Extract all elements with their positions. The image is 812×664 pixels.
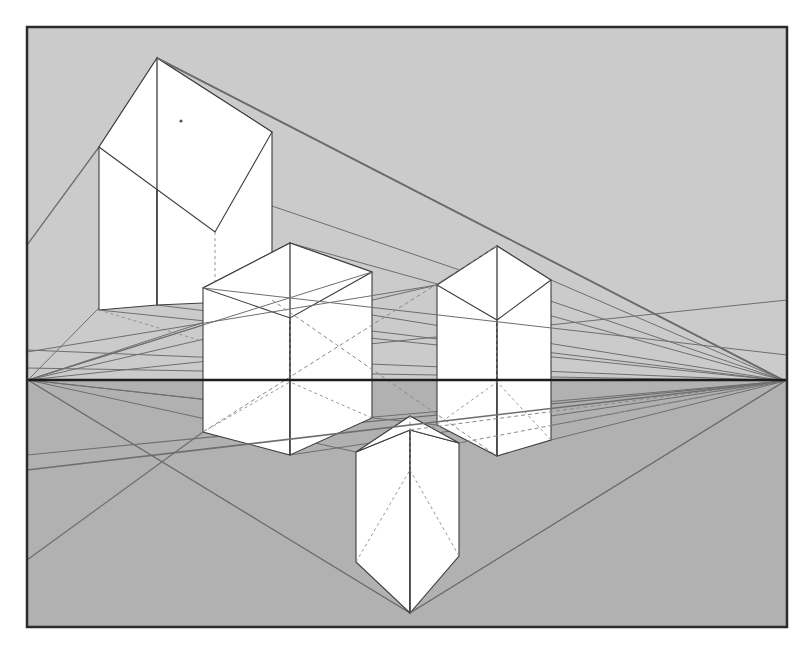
drawing-content	[27, 27, 787, 627]
speck-mark	[179, 119, 182, 122]
perspective-construction-svg	[0, 0, 812, 664]
perspective-drawing-canvas	[0, 0, 812, 664]
